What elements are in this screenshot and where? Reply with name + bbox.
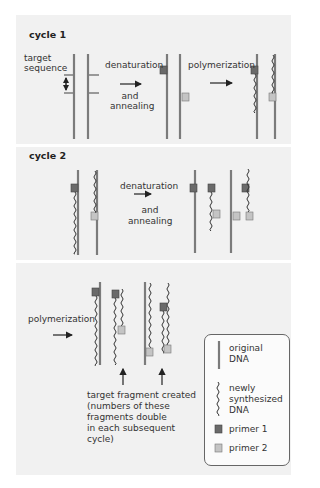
and-label-2: and — [130, 205, 170, 216]
primer-2-marker — [146, 348, 153, 356]
caption-line: target fragment created — [87, 390, 196, 401]
primer-1-marker — [190, 184, 197, 192]
annealing-label: annealing — [110, 101, 154, 112]
primer-2-marker — [164, 345, 171, 353]
primer-2-marker — [246, 212, 253, 220]
caption-line: (numbers of these — [87, 401, 170, 412]
cycle-1-title: cycle 1 — [29, 29, 66, 40]
polymerization-label-3: polymerization — [28, 314, 95, 325]
legend-new-dna-label: DNA — [229, 405, 249, 416]
denaturation-label: denaturation — [105, 60, 163, 71]
legend-primer-2-label: primer 2 — [229, 443, 268, 454]
primer-2-marker — [233, 212, 240, 220]
legend: original DNA newly synthesized DNA prime… — [204, 334, 290, 466]
new-dna-strand — [74, 192, 76, 254]
denaturation-label-2: denaturation — [120, 181, 178, 192]
legend-primer-2-icon — [215, 444, 222, 452]
legend-original-dna-label: DNA — [229, 354, 249, 365]
new-dna-strand — [167, 283, 169, 345]
new-dna-strand — [254, 74, 256, 113]
primer-1-marker — [112, 290, 119, 298]
primer-2-marker — [182, 93, 189, 101]
new-dna-strand — [121, 289, 123, 327]
new-dna-strand — [210, 192, 212, 231]
caption-line: in each subsequent — [87, 423, 175, 434]
primer-2-marker — [118, 326, 125, 334]
primer-2-marker — [91, 212, 98, 220]
legend-new-dna-icon — [217, 382, 219, 415]
primer-2-marker — [213, 210, 220, 218]
primer-1-marker — [160, 303, 167, 311]
new-dna-strand — [149, 283, 151, 348]
legend-new-dna-label: synthesized — [229, 394, 283, 405]
new-dna-strand — [272, 55, 274, 93]
primer-1-marker — [92, 288, 99, 296]
polymerization-label-1: polymerization — [188, 60, 255, 71]
legend-primer-1-label: primer 1 — [229, 424, 268, 435]
annealing-label-2: annealing — [128, 216, 172, 227]
primer-2-marker — [269, 93, 276, 101]
target-sequence-label-2: sequence — [24, 63, 67, 74]
primer-1-marker — [71, 184, 78, 192]
new-dna-strand — [114, 298, 116, 365]
legend-original-dna-label: original — [229, 343, 263, 354]
primer-1-marker — [208, 184, 215, 192]
new-dna-strand — [94, 171, 96, 212]
new-dna-strand — [95, 296, 97, 365]
cycle-2-title: cycle 2 — [29, 150, 66, 161]
legend-new-dna-label: newly — [229, 383, 255, 394]
caption-line: fragments double — [87, 412, 167, 423]
caption-line: cycle) — [87, 434, 114, 445]
legend-primer-1-icon — [215, 425, 222, 433]
